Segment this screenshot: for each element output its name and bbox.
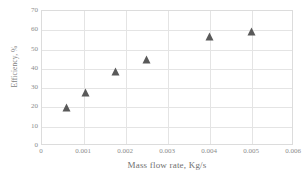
plot-area [41,10,293,145]
data-point-marker [63,104,71,112]
x-tick-label: 0.004 [189,147,229,156]
gridline-horizontal [42,50,292,51]
gridline-horizontal [42,107,292,108]
efficiency-vs-mass-flow-rate-chart: Efficiency, % 010203040506070 00.0010.00… [0,0,303,178]
gridline-horizontal [42,127,292,128]
gridline-horizontal [42,69,292,70]
x-tick-label: 0.003 [147,147,187,156]
gridline-vertical [168,11,169,144]
y-tick-label: 60 [20,25,38,33]
data-point-marker [248,28,256,36]
data-point-marker [111,67,119,75]
x-axis-title: Mass flow rate, Kg/s [41,160,293,170]
gridline-vertical [210,11,211,144]
y-tick-label: 50 [20,45,38,53]
y-axis-title: Efficiency, % [10,22,19,112]
x-tick-label: 0 [21,147,61,156]
y-tick-label: 70 [20,6,38,14]
x-tick-label: 0.005 [231,147,271,156]
data-point-marker [143,56,151,64]
data-point-marker [82,88,90,96]
y-tick-label: 40 [20,64,38,72]
y-axis-tick-labels: 010203040506070 [20,6,38,146]
gridline-horizontal [42,88,292,89]
data-point-marker [206,33,214,41]
x-tick-label: 0.006 [273,147,303,156]
gridline-vertical [84,11,85,144]
x-tick-label: 0.002 [105,147,145,156]
x-tick-label: 0.001 [63,147,103,156]
y-tick-label: 10 [20,122,38,130]
y-tick-label: 30 [20,83,38,91]
gridline-vertical [126,11,127,144]
y-tick-label: 20 [20,102,38,110]
x-axis-tick-labels: 00.0010.0020.0030.0040.0050.006 [41,147,293,158]
